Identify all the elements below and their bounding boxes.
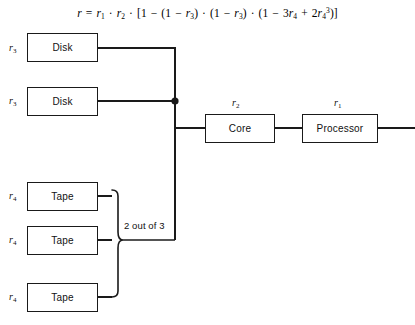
block-tape-3-label: Tape <box>51 292 74 303</box>
reliability-label-core: r2 <box>232 97 239 110</box>
voter-brace <box>112 190 123 297</box>
block-processor-label: Processor <box>317 123 364 134</box>
reliability-label-processor: r1 <box>334 97 341 110</box>
wire-disk1-to-bus <box>98 48 175 101</box>
junction-dot <box>171 97 178 104</box>
block-disk-2-label: Disk <box>52 96 72 107</box>
reliability-label-disk-2: r3 <box>9 95 16 108</box>
block-disk-2[interactable]: Disk <box>27 87 98 116</box>
reliability-label-disk-1: r3 <box>9 42 16 55</box>
block-tape-3[interactable]: Tape <box>27 283 98 312</box>
block-disk-1[interactable]: Disk <box>27 33 98 62</box>
reliability-label-tape-2: r4 <box>9 234 16 247</box>
block-core-label: Core <box>229 123 251 134</box>
block-core[interactable]: Core <box>205 114 275 143</box>
block-tape-1-label: Tape <box>51 191 74 202</box>
voting-annotation: 2 out of 3 <box>124 220 165 231</box>
reliability-label-tape-3: r4 <box>9 291 16 304</box>
block-tape-2[interactable]: Tape <box>27 226 98 255</box>
block-tape-1[interactable]: Tape <box>27 182 98 211</box>
block-processor[interactable]: Processor <box>302 114 378 143</box>
block-disk-1-label: Disk <box>52 42 72 53</box>
block-tape-2-label: Tape <box>51 235 74 246</box>
reliability-label-tape-1: r4 <box>9 190 16 203</box>
